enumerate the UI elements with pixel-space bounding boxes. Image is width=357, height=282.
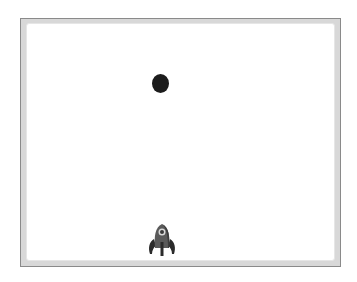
- rocket-player[interactable]: [147, 223, 177, 257]
- game-canvas[interactable]: [26, 23, 335, 261]
- ball: [152, 74, 169, 93]
- game-stage[interactable]: [20, 18, 341, 267]
- rocket-icon: [147, 223, 177, 257]
